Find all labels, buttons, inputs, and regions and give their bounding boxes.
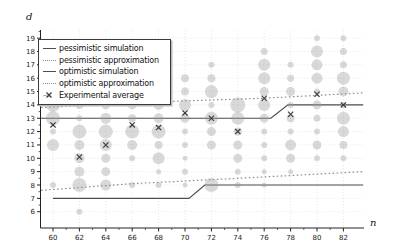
bubble [50,182,56,188]
y-tick-label: 11 [26,141,35,149]
solid-line-icon [43,48,56,49]
bubble [233,154,242,163]
bubble [74,140,84,150]
bubble [338,87,348,97]
bubble [261,142,267,148]
bubble [287,75,294,82]
bubble [72,125,86,139]
y-tick-label: 7 [31,195,35,203]
bubble [314,35,320,41]
y-tick-label: 14 [26,101,35,109]
bubble [260,114,269,123]
legend-entry: optimistic simulation [43,66,165,78]
legend-entry-label: optimistic simulation [59,67,138,76]
bubble [261,155,267,161]
bubble [340,61,347,68]
y-tick-label: 17 [26,61,35,69]
bubble [183,183,188,188]
bubble [314,155,320,161]
bubble [288,62,294,68]
bubble [338,126,349,137]
bubble [287,114,295,122]
bubble [337,112,350,125]
bubble [230,97,245,112]
x-tick-label: 64 [101,234,110,242]
bubble [50,129,56,135]
bubble [76,115,82,121]
bubble [125,125,139,139]
bubble [181,74,189,82]
bubble [129,155,135,161]
bubble [261,129,267,135]
y-tick-label: 18 [26,48,35,56]
plot-area: 6789101112131415161718196062646668707274… [0,0,396,251]
x-marker-icon [43,91,56,100]
bubble [100,180,111,191]
bubble [313,140,322,149]
x-tick-label: 82 [339,234,348,242]
bubble [76,209,82,215]
bubble [235,182,241,188]
bubble [179,99,191,111]
bubble [152,125,166,139]
y-axis-letter: d [26,11,32,22]
bubble [182,129,188,135]
bubble [314,129,320,135]
bubble [261,48,268,55]
legend-entry: pessimistic simulation [43,43,165,55]
bubble [207,74,215,82]
bubble [262,169,267,174]
dotted-line-icon [43,83,56,84]
bubble [285,139,296,150]
x-tick-label: 80 [313,234,322,242]
bubble [208,62,214,68]
bubble [182,142,188,148]
y-tick-label: 10 [26,155,35,163]
y-tick-label: 9 [31,168,35,176]
bubble [155,141,163,149]
bubble [340,35,346,41]
bubble [258,72,270,84]
bubble [156,169,161,174]
bubble [101,154,110,163]
x-tick-label: 66 [128,234,137,242]
y-tick-label: 6 [31,208,36,216]
bubble [207,127,216,136]
bubble [181,88,189,96]
solid-line-icon [43,71,56,72]
legend-box: pessimistic simulationpessimistic approx… [38,39,171,105]
legend-entry-label: Experimental average [59,91,144,100]
bubble [235,169,241,175]
y-tick-label: 15 [26,88,35,96]
x-tick-label: 62 [75,234,84,242]
bubble [101,167,110,176]
legend-entry-label: pessimistic simulation [59,44,143,53]
legend-entry-label: pessimistic approximation [59,56,159,65]
bubble [260,87,269,96]
bubble-chart-figure: 6789101112131415161718196062646668707274… [0,0,396,251]
y-tick-label: 19 [26,35,35,43]
bubble [337,72,350,85]
bubble [340,48,347,55]
bubble [74,153,84,163]
x-tick-label: 60 [49,234,58,242]
bubble [288,169,293,174]
x-tick-label: 70 [181,234,190,242]
legend-entry: Experimental average [43,89,165,101]
bubble [312,73,323,84]
bubble [129,182,135,188]
x-tick-label: 72 [207,234,216,242]
bubble [153,152,165,164]
x-tick-label: 68 [154,234,163,242]
bubble [311,46,323,58]
y-tick-label: 16 [26,75,35,83]
x-tick-label: 74 [233,234,242,242]
bubble [288,129,294,135]
bubble [258,99,270,111]
bubble [286,154,295,163]
bubble [127,140,137,150]
bubble [314,115,321,122]
dotted-line-icon [43,60,56,61]
bubble [204,178,218,192]
bubble [258,59,270,71]
